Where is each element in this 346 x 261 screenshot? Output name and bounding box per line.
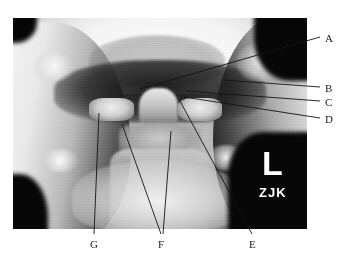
c1-lateral-mass-right [178,98,222,121]
mastoid-nodule-left [34,52,75,82]
annotation-label-c: C [325,97,332,108]
annotation-label-a: A [325,33,333,44]
dental-nodule-left [42,149,77,172]
annotation-label-g: G [90,239,98,250]
laterality-marker-l: L [262,146,292,180]
annotation-label-d: D [325,114,333,125]
annotation-label-b: B [325,83,332,94]
c1-lateral-mass-left [89,98,133,121]
annotation-label-e: E [249,239,256,250]
annotation-label-f: F [158,239,164,250]
tongue-soft-tissue [72,161,243,229]
annotated-radiograph-figure: L ZJK A B C D E F G [0,0,346,261]
technologist-initials: ZJK [259,186,287,199]
odontoid-process [139,88,177,128]
